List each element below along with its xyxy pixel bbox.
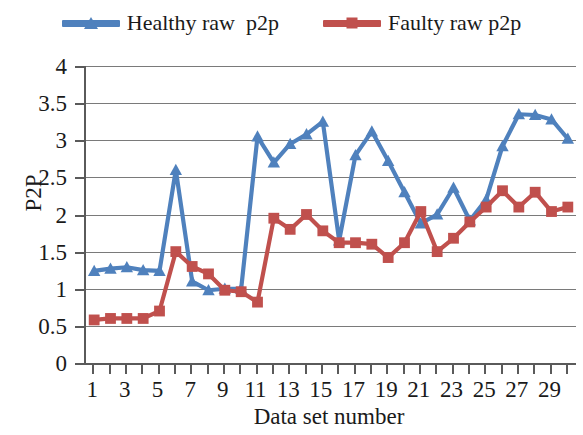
legend-label-healthy: Healthy raw p2p [127,12,279,34]
data-point-marker [366,239,377,250]
x-axis-tick-label: 3 [119,378,131,402]
x-axis-tick [354,365,356,374]
y-axis-tick [75,363,84,365]
data-point-marker [236,286,247,297]
data-point-marker [350,237,361,248]
x-axis-tick [174,365,176,374]
x-axis-tick-label: 25 [473,378,496,402]
x-axis-tick [109,365,111,374]
data-point-marker [334,237,345,248]
data-point-marker [432,246,443,257]
x-axis-tick-label: 1 [86,378,98,402]
data-point-marker [530,187,541,198]
legend-swatch-faulty [323,20,381,27]
y-axis-tick [75,252,84,254]
x-axis-tick [92,365,94,374]
x-axis-tick-label: 11 [244,378,266,402]
data-point-marker [203,269,214,280]
data-point-marker [546,206,557,217]
x-axis-tick [550,365,552,374]
y-axis-tick-label: 3 [56,129,68,152]
chart-legend: Healthy raw p2p Faulty raw p2p [0,6,583,40]
data-point-marker [366,125,378,136]
data-point-marker [317,115,329,126]
legend-item-healthy[interactable]: Healthy raw p2p [62,12,279,34]
y-axis-tick [75,215,84,217]
data-point-marker [301,209,312,220]
x-axis-tick [337,365,339,374]
legend-swatch-healthy [62,20,120,27]
x-axis-tick [158,365,160,374]
x-axis-tick-label: 17 [342,378,365,402]
x-axis-tick [272,365,274,374]
data-point-marker [464,217,475,228]
series-healthy [88,108,574,295]
x-axis-ticks [84,365,574,375]
x-axis-tick [125,365,127,374]
triangle-marker-icon [84,17,98,29]
x-axis-tick-label: 15 [309,378,332,402]
x-axis-tick [533,365,535,374]
x-axis-tick-label: 29 [538,378,561,402]
data-point-marker [121,313,132,324]
x-axis-tick [141,365,143,374]
x-axis-tick [305,365,307,374]
data-point-marker [317,225,328,236]
data-point-marker [268,213,279,224]
x-axis-tick [223,365,225,374]
x-axis-tick-label: 19 [375,378,398,402]
x-axis-tick [501,365,503,374]
x-axis-tick [288,365,290,374]
data-point-marker [105,313,116,324]
y-axis-tick [75,289,84,291]
x-axis-tick [190,365,192,374]
x-axis-tick [517,365,519,374]
data-point-marker [154,306,165,317]
x-axis-tick [239,365,241,374]
data-point-marker [497,185,508,196]
legend-item-faulty[interactable]: Faulty raw p2p [323,12,521,34]
y-axis-tick [75,66,84,68]
data-point-marker [170,246,181,257]
y-axis-tick-label: 0 [56,352,68,375]
x-axis-tick [419,365,421,374]
x-axis-tick-label: 27 [505,378,528,402]
y-axis-tick [75,103,84,105]
data-point-marker [138,313,149,324]
x-axis-tick [321,365,323,374]
x-axis-tick [386,365,388,374]
data-point-marker [481,202,492,213]
data-point-marker [252,297,263,308]
data-point-marker [187,261,198,272]
chart-container: Healthy raw p2p Faulty raw p2p P2P 00.51… [0,0,583,435]
data-point-marker [251,130,263,141]
x-axis-tick [468,365,470,374]
y-axis-tick-label: 3.5 [38,92,67,115]
y-axis-tick-label: 1.5 [38,240,67,263]
series-layer [86,66,576,363]
x-axis-tick [452,365,454,374]
y-axis-tick-label: 0.5 [38,314,67,337]
y-axis-tick-label: 4 [56,55,68,78]
x-axis-tick [370,365,372,374]
x-axis-tick-label: 23 [440,378,463,402]
x-axis-tick [207,365,209,374]
y-axis-tick [75,177,84,179]
x-axis-tick-label: 21 [407,378,430,402]
x-axis-tick [256,365,258,374]
data-point-marker [285,224,296,235]
data-point-marker [447,182,459,193]
data-point-marker [170,164,182,175]
y-axis-ticks [75,66,84,363]
plot-area [84,66,576,365]
square-marker-icon [346,18,357,29]
x-axis-tick-labels: 1357911131517192123252729 [84,378,574,404]
series-line [94,191,568,320]
data-point-marker [513,202,524,213]
x-axis-tick [566,365,568,374]
y-axis-tick-labels: 00.511.522.533.54 [0,66,71,363]
y-axis-tick [75,140,84,142]
x-axis-tick-label: 13 [277,378,300,402]
x-axis-tick-label: 7 [184,378,196,402]
data-point-marker [399,237,410,248]
